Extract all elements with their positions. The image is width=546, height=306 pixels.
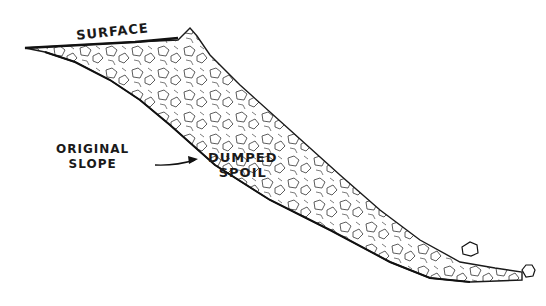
original-slope-label-line2: SLOPE	[56, 157, 129, 172]
dumped-spoil-label-line2: SPOIL	[208, 165, 277, 180]
original-slope-label: ORIGINAL SLOPE	[56, 142, 129, 172]
dumped-spoil-label-line1: DUMPED	[208, 150, 277, 165]
dumped-spoil-label: DUMPED SPOIL	[208, 150, 277, 180]
boulder	[462, 242, 478, 256]
boulder	[522, 265, 535, 277]
arrowhead-icon	[188, 156, 198, 164]
original-slope-label-line1: ORIGINAL	[56, 142, 129, 157]
